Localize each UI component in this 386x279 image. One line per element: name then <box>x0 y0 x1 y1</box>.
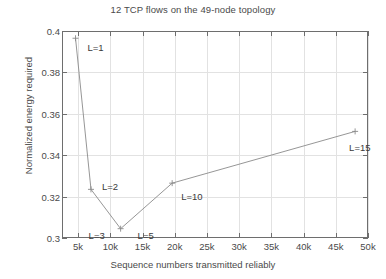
data-point-label: L=2 <box>102 181 118 192</box>
data-series <box>0 0 386 279</box>
data-point-marker <box>73 35 79 41</box>
data-point-label: L=10 <box>181 191 202 202</box>
data-point-marker <box>352 128 358 134</box>
series-line <box>76 38 356 228</box>
data-point-label: L=5 <box>138 230 154 241</box>
chart-figure: 12 TCP flows on the 49-node topology Nor… <box>0 0 386 279</box>
data-point-label: L=3 <box>89 230 105 241</box>
data-point-label: L=15 <box>349 142 370 153</box>
data-point-label: L=1 <box>88 42 104 53</box>
